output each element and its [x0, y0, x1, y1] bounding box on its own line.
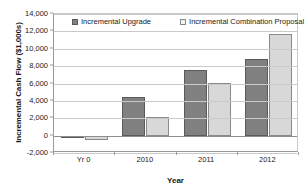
x-tick-label: 2011	[198, 155, 214, 164]
y-tick-label: 14,000	[25, 9, 48, 18]
x-tick-label: 2012	[259, 155, 276, 164]
x-tick-label: 2010	[137, 155, 154, 164]
dark-swatch-icon	[72, 19, 78, 25]
legend-label-1: Incremental Combination Proposal	[189, 17, 304, 26]
zero-line	[54, 136, 297, 137]
bar-chart: Incremental Cash Flow ($1,000s) -2,00002…	[0, 0, 308, 194]
legend-label-0: Incremental Upgrade	[81, 17, 151, 26]
y-tick-label: 8,000	[29, 61, 48, 70]
y-tick-label: 12,000	[25, 26, 48, 35]
bar-2010-series-0	[122, 97, 145, 136]
light-swatch-icon	[180, 19, 186, 25]
gridline	[54, 66, 297, 67]
y-tick-label: 2,000	[29, 113, 48, 122]
y-tick-label: 4,000	[29, 95, 48, 104]
y-tick-label: 0	[44, 130, 48, 139]
x-tick-mark	[298, 152, 299, 155]
x-axis-tick-labels: Yr 0201020112012	[53, 155, 298, 169]
x-tick-label: Yr 0	[77, 155, 91, 164]
gridline	[54, 84, 297, 85]
y-axis-tick-labels: -2,00002,0004,0006,0008,00010,00012,0001…	[0, 0, 53, 194]
bar-2011-series-1	[208, 83, 231, 136]
gridline	[54, 31, 297, 32]
y-tick-label: -2,000	[27, 148, 48, 157]
plot-area	[53, 13, 298, 152]
x-tick-mark	[176, 152, 177, 155]
y-tick-label: 6,000	[29, 78, 48, 87]
gridline	[54, 118, 297, 119]
bar-2010-series-1	[146, 117, 169, 136]
y-tick-label: 10,000	[25, 43, 48, 52]
x-tick-mark	[114, 152, 115, 155]
gridline	[54, 101, 297, 102]
bar-series-container	[54, 14, 297, 151]
x-axis-title: Year	[53, 176, 298, 185]
x-tick-mark	[237, 152, 238, 155]
legend-item-1: Incremental Combination Proposal	[180, 17, 304, 26]
bar-2011-series-0	[184, 70, 207, 135]
x-tick-mark	[53, 152, 54, 155]
chart-legend: Incremental Upgrade Incremental Combinat…	[72, 17, 304, 26]
bar-2012-series-0	[245, 59, 268, 135]
legend-item-0: Incremental Upgrade	[72, 17, 151, 26]
gridline	[54, 14, 297, 15]
gridline	[54, 49, 297, 50]
